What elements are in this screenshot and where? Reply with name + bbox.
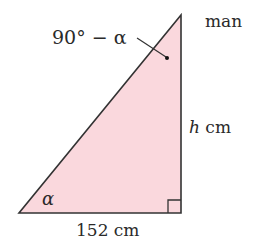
top-vertex-label: man xyxy=(205,11,242,31)
base-side-label: 152 cm xyxy=(76,220,140,240)
angle-marker-dot xyxy=(165,56,169,60)
top-angle-label: 90° − α xyxy=(52,26,127,48)
vertical-side-unit: cm xyxy=(200,117,231,137)
h-variable: h xyxy=(189,117,200,137)
right-triangle-diagram: 90° − α man h cm α 152 cm xyxy=(0,0,259,242)
bottom-left-angle-label: α xyxy=(42,188,54,209)
vertical-side-label: h cm xyxy=(189,117,231,137)
